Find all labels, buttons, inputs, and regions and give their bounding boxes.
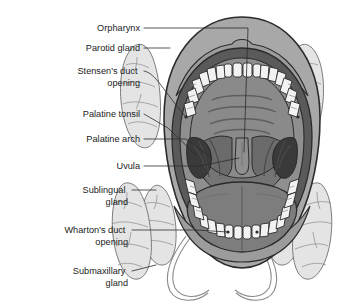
oral-cavity-diagram: Orpharynx Parotid gland Stensen's duct o… [0,0,343,308]
label-orpharynx: Orpharynx [97,23,140,33]
uvula [235,138,249,175]
diagram-canvas: Orpharynx Parotid gland Stensen's duct o… [0,0,343,308]
label-palatine-arch: Palatine arch [86,134,140,144]
label-submaxillary-gland: Submaxillary gland [73,266,128,288]
label-uvula: Uvula [117,161,141,171]
label-palatine-tonsil: Palatine tonsil [83,109,140,119]
label-parotid-gland: Parotid gland [86,43,140,53]
parotid-gland-left [121,44,161,148]
